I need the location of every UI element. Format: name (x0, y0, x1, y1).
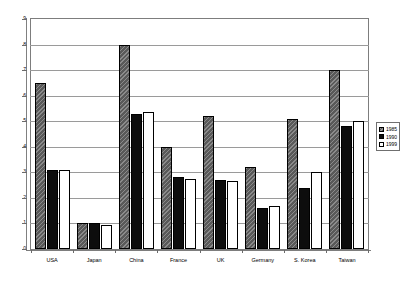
legend-swatch (379, 127, 384, 132)
bar (173, 177, 184, 249)
legend-item[interactable]: 1990 (379, 133, 397, 140)
y-axis-tick-label: 0 (4, 245, 26, 251)
bar (161, 147, 172, 249)
x-axis-label: China (115, 256, 157, 264)
x-axis-label: Taiwan (326, 256, 368, 264)
y-axis-tick-label: 7 (4, 66, 26, 72)
bar (89, 223, 100, 249)
y-axis-tick-label: 9 (4, 15, 26, 21)
bar (185, 179, 196, 249)
y-axis-tick-mark (22, 147, 27, 148)
bar (101, 225, 112, 249)
bar (77, 223, 88, 249)
y-axis-line (26, 18, 27, 250)
bar (329, 70, 340, 249)
bar-group (31, 19, 73, 249)
y-axis-tick-label: 6 (4, 92, 26, 98)
bar (47, 170, 58, 249)
legend: 198519901999 (376, 122, 400, 151)
legend-label: 1985 (386, 126, 397, 132)
bar-group (157, 19, 199, 249)
x-axis-label: Germany (242, 256, 284, 264)
y-axis-tick-mark (22, 45, 27, 46)
y-axis-tick-label: 3 (4, 168, 26, 174)
bar-group (73, 19, 115, 249)
bar (353, 121, 364, 249)
x-axis-tick-mark (284, 250, 285, 253)
bar-group (115, 19, 157, 249)
x-axis-labels: USAJapanChinaFranceUKGermanyS. KoreaTaiw… (31, 256, 368, 264)
plot-area (31, 19, 368, 249)
x-axis-tick-mark (200, 250, 201, 253)
x-axis-label: Japan (73, 256, 115, 264)
x-axis-tick-mark (368, 250, 369, 253)
x-axis-label: UK (200, 256, 242, 264)
y-axis-tick-label: 4 (4, 143, 26, 149)
bar-group (284, 19, 326, 249)
x-axis-tick-mark (157, 250, 158, 253)
bar (311, 172, 322, 249)
bar (227, 181, 238, 249)
bar (245, 167, 256, 249)
legend-item[interactable]: 1999 (379, 141, 397, 148)
bar (269, 206, 280, 249)
y-axis-tick-label: 1 (4, 219, 26, 225)
bar-group (326, 19, 368, 249)
y-axis-tick-mark (22, 19, 27, 20)
x-axis-line (26, 250, 371, 251)
bar (59, 170, 70, 249)
bar-group (242, 19, 284, 249)
x-axis-tick-mark (326, 250, 327, 253)
legend-label: 1999 (386, 141, 397, 147)
legend-swatch (379, 134, 384, 139)
bar (203, 116, 214, 249)
x-axis-label: USA (31, 256, 73, 264)
y-axis-tick-mark (22, 198, 27, 199)
bar (341, 126, 352, 249)
x-axis-tick-mark (31, 250, 32, 253)
x-axis-tick-mark (115, 250, 116, 253)
x-axis-label: S. Korea (284, 256, 326, 264)
y-axis-tick-mark (22, 249, 27, 250)
y-axis-tick-mark (22, 70, 27, 71)
x-axis-tick-mark (242, 250, 243, 253)
y-axis-tick-mark (22, 96, 27, 97)
bar (131, 114, 142, 249)
y-axis-tick-mark (22, 172, 27, 173)
x-axis-tick-mark (73, 250, 74, 253)
y-axis-tick-mark (22, 223, 27, 224)
bar-group (200, 19, 242, 249)
bar (35, 83, 46, 249)
bar (119, 45, 130, 249)
legend-item[interactable]: 1985 (379, 126, 397, 133)
x-axis-label: France (157, 256, 199, 264)
bar (287, 119, 298, 249)
y-axis-tick-label: 2 (4, 194, 26, 200)
y-axis-tick-label: 5 (4, 117, 26, 123)
bar (215, 180, 226, 249)
legend-swatch (379, 142, 384, 147)
y-axis-tick-mark (22, 121, 27, 122)
bar (257, 208, 268, 249)
bar (299, 188, 310, 249)
bar-chart: 0123456789 USAJapanChinaFranceUKGermanyS… (0, 0, 411, 287)
y-axis-tick-label: 8 (4, 41, 26, 47)
legend-label: 1990 (386, 134, 397, 140)
bar (143, 112, 154, 249)
